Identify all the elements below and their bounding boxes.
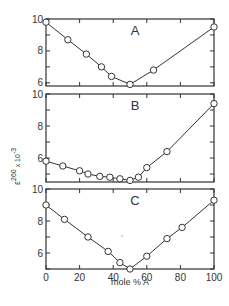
data-point <box>97 173 103 179</box>
y-tick-label: 10 <box>32 14 44 25</box>
svg-text:ε260 x 10-3: ε260 x 10-3 <box>10 148 22 185</box>
data-point <box>127 266 133 272</box>
panel-c: 6810020406080100C <box>32 184 223 284</box>
data-point <box>179 224 185 230</box>
data-point <box>43 202 49 208</box>
data-point <box>117 176 123 182</box>
data-point <box>61 216 67 222</box>
x-tick-label: 100 <box>206 272 223 283</box>
data-point <box>127 177 133 183</box>
data-point <box>164 148 170 154</box>
data-point <box>211 100 217 106</box>
y-axis-label: ε260 x 10-3 <box>10 148 22 185</box>
data-point <box>135 174 141 180</box>
data-point <box>43 19 49 25</box>
data-point <box>117 259 123 265</box>
data-point <box>43 158 49 164</box>
figure: 6810A6810B6810020406080100C ε260 x 10-3 … <box>0 0 229 306</box>
panel-label: A <box>131 23 140 38</box>
panel-a: 6810A <box>32 14 217 89</box>
speck <box>121 235 123 237</box>
x-tick-label: 0 <box>43 272 49 283</box>
data-point <box>108 73 114 79</box>
data-point <box>144 164 150 170</box>
data-point <box>211 197 217 203</box>
data-point <box>127 81 133 87</box>
panel-b: 6810B <box>32 89 217 184</box>
y-tick-label: 8 <box>37 45 43 56</box>
x-axis-label: mole % A <box>111 277 149 287</box>
y-tick-label: 10 <box>32 184 44 195</box>
data-point <box>76 168 82 174</box>
y-tick-label: 8 <box>37 216 43 227</box>
data-point <box>164 235 170 241</box>
series-line <box>46 200 214 269</box>
data-point <box>105 248 111 254</box>
series-line <box>46 104 214 181</box>
panel-label: B <box>131 98 140 113</box>
y-tick-label: 6 <box>37 248 43 259</box>
data-point <box>60 163 66 169</box>
data-point <box>85 234 91 240</box>
y-tick-label: 10 <box>32 89 44 100</box>
data-point <box>83 51 89 57</box>
y-tick-label: 6 <box>37 77 43 88</box>
data-point <box>211 24 217 30</box>
x-tick-label: 20 <box>74 272 86 283</box>
data-point <box>150 67 156 73</box>
data-point <box>65 37 71 43</box>
data-point <box>144 253 150 259</box>
data-point <box>107 174 113 180</box>
x-tick-label: 80 <box>175 272 187 283</box>
data-point <box>85 171 91 177</box>
y-tick-label: 8 <box>37 121 43 132</box>
panel-label: C <box>130 193 139 208</box>
data-point <box>98 64 104 70</box>
